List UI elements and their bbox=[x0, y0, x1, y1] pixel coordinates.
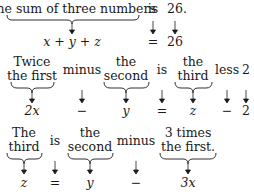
phrase-second: second bbox=[68, 140, 112, 153]
expr-y: y bbox=[122, 104, 129, 117]
expr-equals: = bbox=[148, 35, 158, 48]
phrase-the: the bbox=[80, 126, 100, 139]
phrase-third: third bbox=[8, 140, 39, 153]
expr-3x: 3x bbox=[180, 176, 195, 189]
phrase-is: is bbox=[157, 63, 167, 76]
phrase-26: 26. bbox=[167, 2, 187, 15]
expr-z: z bbox=[190, 104, 197, 117]
brace-icon bbox=[7, 15, 139, 24]
expr-minus: − bbox=[77, 104, 87, 117]
phrase-twice: Twice bbox=[14, 55, 51, 68]
phrase-the: The bbox=[12, 126, 36, 139]
expr-sum: x + y + z bbox=[43, 35, 101, 48]
phrase-less: less bbox=[215, 63, 239, 76]
expr-y: y bbox=[86, 176, 93, 189]
expr-26: 26 bbox=[167, 35, 183, 48]
expr-2: 2 bbox=[242, 104, 250, 117]
phrase-the: the bbox=[183, 55, 203, 68]
expr-z: z bbox=[21, 176, 28, 189]
phrase-second: second bbox=[104, 69, 148, 82]
phrase-is: is bbox=[148, 2, 158, 15]
phrase-the-first: the first. bbox=[161, 140, 215, 153]
phrase-the: the bbox=[116, 55, 136, 68]
phrase-minus: minus bbox=[117, 134, 155, 147]
braces-and-arrows bbox=[0, 0, 254, 192]
phrase-sum: The sum of three numbers bbox=[0, 2, 156, 15]
expr-equals: = bbox=[50, 176, 60, 189]
phrase-third: third bbox=[177, 69, 208, 82]
expr-equals: = bbox=[157, 104, 167, 117]
phrase-the-first: the first bbox=[7, 69, 57, 82]
expr-minus: − bbox=[131, 176, 141, 189]
phrase-2: 2 bbox=[242, 63, 250, 76]
phrase-minus: minus bbox=[63, 63, 101, 76]
phrase-3-times: 3 times bbox=[165, 126, 212, 139]
expr-minus: − bbox=[222, 104, 232, 117]
expr-2x: 2x bbox=[24, 104, 39, 117]
phrase-is: is bbox=[50, 134, 60, 147]
